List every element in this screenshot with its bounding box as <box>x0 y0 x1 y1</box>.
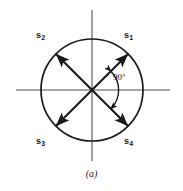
vector-label-s4: s4 <box>124 137 133 146</box>
figure-caption: (a) <box>0 168 183 179</box>
constellation-diagram <box>0 0 183 191</box>
vector-label-s3: s3 <box>36 137 45 146</box>
vector-label-s4-subscript: 4 <box>129 140 133 147</box>
vector-s4 <box>92 90 128 126</box>
vector-s2 <box>56 54 92 90</box>
vector-label-s1-subscript: 1 <box>129 34 133 41</box>
vector-label-s2-subscript: 2 <box>41 34 45 41</box>
vector-label-s3-subscript: 3 <box>41 140 45 147</box>
vector-label-s2: s2 <box>36 31 45 40</box>
vector-label-s1: s1 <box>124 31 133 40</box>
vector-s3 <box>56 90 92 126</box>
signal-constellation-figure: s1 s2 s3 s4 90° (a) <box>0 0 183 191</box>
angle-annotation-label: 90° <box>113 73 126 82</box>
